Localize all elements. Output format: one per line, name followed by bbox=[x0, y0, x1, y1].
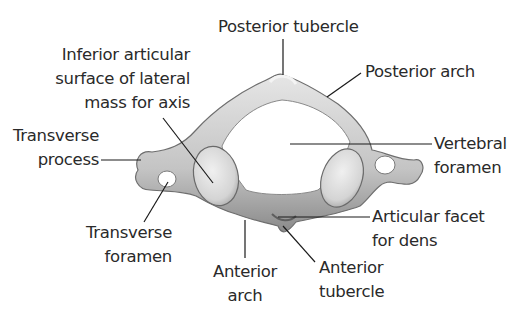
label-line: Posterior arch bbox=[365, 60, 475, 84]
label-line: foramen bbox=[434, 156, 507, 180]
leader-anterior-tubercle bbox=[283, 226, 315, 262]
label-inferior-articular-surface: Inferior articular surface of lateral ma… bbox=[40, 43, 190, 115]
label-line: Anterior bbox=[319, 256, 384, 280]
label-transverse-foramen: Transverse foramen bbox=[80, 221, 172, 269]
leader-posterior-arch bbox=[327, 73, 361, 97]
label-line: surface of lateral bbox=[40, 67, 190, 91]
right-transverse-foramen-hole bbox=[375, 156, 395, 174]
label-line: mass for axis bbox=[40, 91, 190, 115]
label-anterior-tubercle: Anterior tubercle bbox=[319, 256, 384, 304]
label-anterior-arch: Anterior arch bbox=[205, 260, 285, 308]
label-line: arch bbox=[205, 284, 285, 308]
label-line: process bbox=[0, 148, 99, 172]
label-line: Vertebral bbox=[434, 132, 507, 156]
label-line: Articular facet bbox=[372, 205, 485, 229]
label-articular-facet-for-dens: Articular facet for dens bbox=[372, 205, 485, 253]
label-line: Transverse bbox=[0, 124, 99, 148]
label-posterior-arch: Posterior arch bbox=[365, 60, 475, 84]
label-posterior-tubercle: Posterior tubercle bbox=[218, 15, 358, 39]
label-line: tubercle bbox=[319, 280, 384, 304]
label-vertebral-foramen: Vertebral foramen bbox=[434, 132, 507, 180]
label-transverse-process: Transverse process bbox=[0, 124, 99, 172]
label-line: Inferior articular bbox=[40, 43, 190, 67]
label-line: Posterior tubercle bbox=[218, 15, 358, 39]
label-line: Anterior bbox=[205, 260, 285, 284]
label-line: foramen bbox=[80, 245, 172, 269]
label-line: for dens bbox=[372, 229, 485, 253]
label-line: Transverse bbox=[80, 221, 172, 245]
